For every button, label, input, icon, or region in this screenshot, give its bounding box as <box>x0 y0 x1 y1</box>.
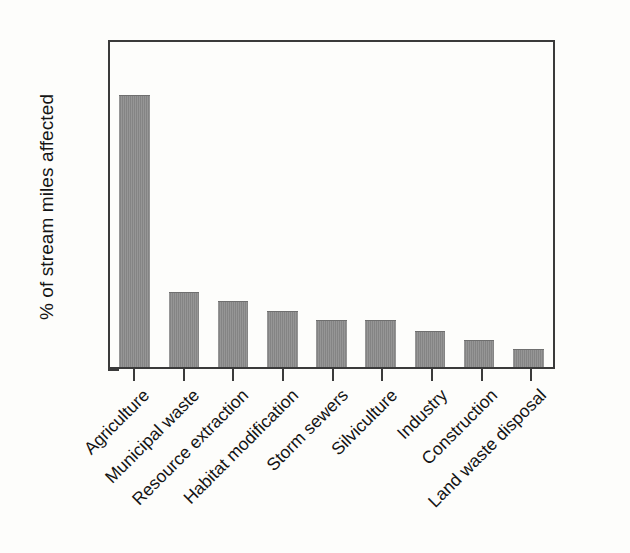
bar <box>119 95 150 367</box>
x-axis-tick <box>431 369 433 381</box>
bar-slot <box>110 42 159 367</box>
bar-slot <box>455 42 504 367</box>
x-axis-tick <box>133 369 135 381</box>
y-axis-title: % of stream miles affected <box>36 42 58 372</box>
y-axis-tick <box>108 369 119 371</box>
x-axis-tick <box>282 369 284 381</box>
bar-slot <box>159 42 208 367</box>
bar-slot <box>208 42 257 367</box>
bar-chart-figure: % of stream miles affected 0102030405060… <box>0 0 630 553</box>
bar-slot <box>504 42 553 367</box>
